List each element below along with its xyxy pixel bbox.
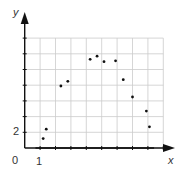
data-point	[42, 137, 45, 140]
data-point	[148, 125, 151, 128]
chart-plot	[0, 0, 185, 174]
data-points	[42, 55, 151, 140]
data-point	[122, 78, 125, 81]
data-point	[45, 128, 48, 131]
axes	[21, 12, 175, 152]
data-point	[89, 58, 92, 61]
data-point	[96, 55, 99, 58]
x-tick-label-1: 1	[36, 155, 42, 167]
x-axis-label: x	[168, 154, 174, 166]
data-point	[145, 110, 148, 113]
data-point	[59, 85, 62, 88]
data-point	[114, 59, 117, 62]
data-point	[66, 80, 69, 83]
data-point	[131, 96, 134, 99]
y-tick-label-2: 2	[13, 125, 19, 137]
y-axis-label: y	[13, 6, 19, 18]
origin-label: 0	[12, 154, 18, 166]
grid-lines	[25, 38, 164, 148]
data-point	[103, 60, 106, 63]
